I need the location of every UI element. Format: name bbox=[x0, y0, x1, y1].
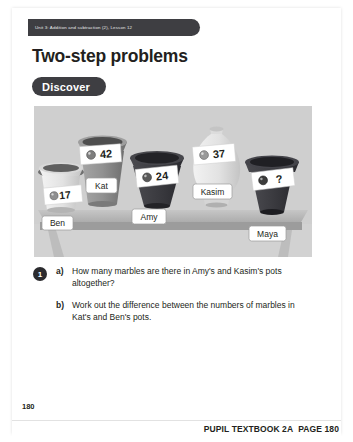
name-ben: Ben bbox=[50, 218, 65, 228]
questions-block: 1 a) How many marbles are there in Amy's… bbox=[33, 266, 321, 334]
question-row-b: b) Work out the difference between the n… bbox=[33, 300, 321, 323]
name-tag-amy: Amy bbox=[132, 209, 166, 224]
name-maya: Maya bbox=[257, 229, 278, 239]
textbook-page: Unit 3: Addition and subtraction (2), Le… bbox=[0, 0, 353, 442]
folio-number: 180 bbox=[22, 402, 35, 411]
name-tag-ben: Ben bbox=[42, 216, 73, 230]
count-ben: 17 bbox=[59, 188, 72, 201]
count-tag-kat: 42 bbox=[79, 144, 121, 165]
count-tag-ben: 17 bbox=[43, 185, 82, 205]
question-letter-b: b) bbox=[47, 300, 72, 310]
count-kat: 42 bbox=[99, 147, 112, 160]
count-kasim: 37 bbox=[212, 147, 225, 160]
name-kasim: Kasim bbox=[201, 187, 225, 197]
question-text-b: Work out the difference between the numb… bbox=[72, 300, 302, 323]
footer-page-number: PAGE 180 bbox=[298, 424, 339, 434]
marble-icon bbox=[86, 150, 95, 159]
name-tag-kasim: Kasim bbox=[193, 184, 232, 199]
illustration-marble-pots: 17 42 24 37 bbox=[34, 106, 312, 257]
name-tag-kat: Kat bbox=[86, 178, 117, 193]
name-kat: Kat bbox=[95, 181, 108, 191]
page-title: Two-step problems bbox=[32, 46, 188, 67]
marble-icon bbox=[50, 191, 59, 200]
footer-reference: PUPIL TEXTBOOK 2A PAGE 180 bbox=[204, 424, 339, 434]
unit-lesson-strip: Unit 3: Addition and subtraction (2), Le… bbox=[28, 19, 200, 36]
question-text-a: How many marbles are there in Amy's and … bbox=[72, 266, 302, 289]
question-letter-a: a) bbox=[47, 266, 72, 276]
name-amy: Amy bbox=[141, 212, 159, 222]
footer-book-title: PUPIL TEXTBOOK 2A bbox=[204, 424, 293, 434]
section-badge-label: Discover bbox=[42, 81, 90, 93]
count-amy: 24 bbox=[155, 169, 169, 182]
question-number-badge: 1 bbox=[33, 267, 47, 281]
count-tag-kasim: 37 bbox=[192, 143, 235, 165]
unit-lesson-text: Unit 3: Addition and subtraction (2), Le… bbox=[28, 25, 132, 30]
question-row-a: 1 a) How many marbles are there in Amy's… bbox=[33, 266, 321, 289]
section-badge-discover: Discover bbox=[32, 77, 106, 96]
name-tag-maya: Maya bbox=[249, 226, 286, 241]
